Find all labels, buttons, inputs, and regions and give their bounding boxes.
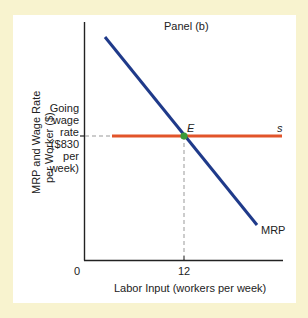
svg-text:week): week) (49, 162, 79, 174)
svg-text:MRP and Wage Rate: MRP and Wage Rate (30, 91, 42, 194)
svg-text:($830: ($830 (51, 138, 79, 150)
supply-label: s (277, 122, 283, 134)
svg-text:rate: rate (60, 126, 79, 138)
svg-text:wage: wage (52, 114, 79, 126)
wage-annotation: Going wage rate ($830 per week) (49, 102, 80, 174)
panel-title: Panel (b) (164, 20, 209, 32)
mrp-line (105, 37, 257, 225)
mrp-label: MRP (261, 224, 285, 236)
equilibrium-label: E (187, 122, 195, 134)
svg-text:Going: Going (50, 102, 79, 114)
origin-label: 0 (74, 265, 80, 277)
x-axis-title: Labor Input (workers per week) (114, 282, 266, 294)
svg-text:per: per (63, 150, 79, 162)
x-tick-label-12: 12 (178, 265, 190, 277)
chart-svg: Panel (b) E s MRP MRP and Wage Rate per … (0, 0, 308, 318)
